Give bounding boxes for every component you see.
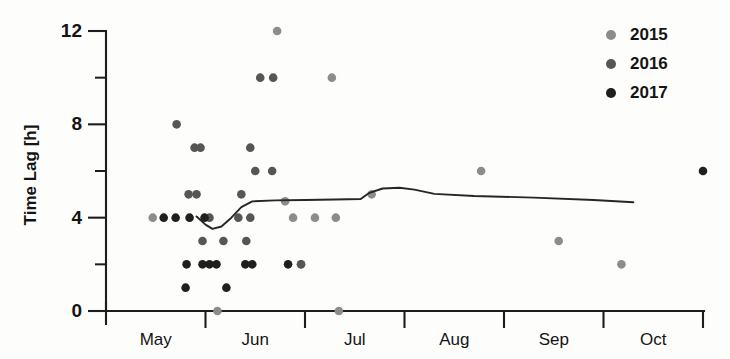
data-point-2017 — [171, 213, 180, 222]
data-point-2015 — [477, 167, 486, 176]
data-point-2016 — [251, 167, 260, 176]
data-point-2016 — [268, 167, 277, 176]
data-point-2017 — [248, 260, 257, 269]
scatter-points-group — [148, 27, 707, 316]
data-point-2016 — [196, 143, 205, 152]
scatter-plot-svg: 04812 MayJunJulAugSepOct Time Lag [h] 20… — [0, 0, 730, 359]
data-point-2016 — [237, 190, 246, 199]
data-point-2016 — [297, 260, 306, 269]
axes-group — [106, 31, 704, 328]
trend-line-path — [197, 188, 634, 229]
data-point-2015 — [617, 260, 626, 269]
data-point-2016 — [219, 237, 228, 246]
data-point-2016 — [198, 237, 207, 246]
legend-marker-2015 — [606, 30, 616, 40]
legend-label-2016: 2016 — [630, 54, 668, 73]
y-tick-label: 12 — [61, 20, 82, 41]
data-point-2015 — [213, 307, 222, 316]
data-point-2015 — [311, 213, 320, 222]
y-axis-ticks — [88, 31, 106, 311]
legend-label-2017: 2017 — [630, 83, 668, 102]
x-tick-label-sep: Sep — [539, 330, 569, 349]
data-point-2016 — [246, 213, 255, 222]
data-point-2015 — [328, 73, 337, 82]
legend-marker-2017 — [606, 88, 616, 98]
data-point-2015 — [281, 197, 290, 206]
data-point-2015 — [148, 213, 157, 222]
data-point-2016 — [242, 237, 251, 246]
data-point-2016 — [184, 190, 193, 199]
data-point-2017 — [159, 213, 168, 222]
data-point-2017 — [212, 260, 221, 269]
legend-marker-2016 — [606, 59, 616, 69]
data-point-2015 — [332, 213, 341, 222]
x-tick-label-may: May — [140, 330, 173, 349]
chart-legend: 201520162017 — [606, 25, 668, 102]
data-point-2015 — [554, 237, 563, 246]
data-point-2015 — [289, 213, 298, 222]
data-point-2017 — [699, 167, 708, 176]
y-tick-label: 0 — [71, 300, 82, 321]
x-tick-label-jun: Jun — [242, 330, 269, 349]
x-axis-tick-labels: MayJunJulAugSepOct — [140, 330, 667, 349]
data-point-2017 — [185, 213, 194, 222]
data-point-2017 — [222, 283, 231, 292]
y-axis-title: Time Lag [h] — [21, 125, 40, 226]
data-point-2017 — [182, 260, 191, 269]
data-point-2017 — [284, 260, 293, 269]
data-point-2016 — [192, 190, 201, 199]
data-point-2016 — [269, 73, 278, 82]
legend-label-2015: 2015 — [630, 25, 668, 44]
y-axis-tick-labels: 04812 — [61, 20, 83, 321]
x-tick-label-jul: Jul — [344, 330, 366, 349]
data-point-2015 — [335, 307, 344, 316]
data-point-2015 — [273, 27, 282, 36]
y-tick-label: 4 — [71, 207, 82, 228]
x-axis-ticks — [206, 311, 604, 328]
chart-figure: 04812 MayJunJulAugSepOct Time Lag [h] 20… — [0, 0, 730, 359]
data-point-2017 — [181, 283, 190, 292]
data-point-2016 — [246, 143, 255, 152]
y-tick-label: 8 — [71, 113, 82, 134]
x-tick-label-oct: Oct — [640, 330, 667, 349]
data-point-2016 — [256, 73, 265, 82]
x-tick-label-aug: Aug — [439, 330, 469, 349]
data-point-2016 — [172, 120, 181, 129]
